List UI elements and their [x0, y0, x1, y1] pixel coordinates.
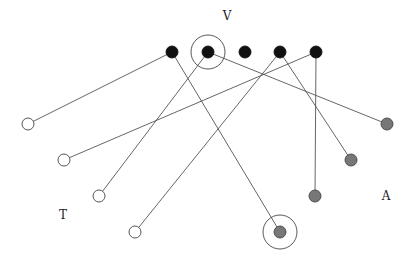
edges-layer	[28, 52, 387, 232]
v-node-v3	[239, 46, 251, 58]
a-node-a4	[274, 226, 286, 238]
a-node-a2	[345, 154, 357, 166]
bipartite-graph-diagram: V T A	[0, 0, 413, 262]
t-node-t4	[129, 226, 141, 238]
v-node-v1	[166, 46, 178, 58]
edge-v1-a4	[172, 52, 280, 232]
v-node-v4	[274, 46, 286, 58]
a-node-a3	[309, 190, 321, 202]
label-v: V	[222, 9, 232, 23]
edge-v2-a1	[208, 52, 387, 124]
a-node-a1	[381, 118, 393, 130]
labels-layer: V T A	[59, 9, 391, 222]
edge-v5-t2	[64, 52, 316, 160]
t-node-t2	[58, 154, 70, 166]
t-node-t3	[93, 190, 105, 202]
t-node-t1	[22, 118, 34, 130]
edge-v2-t3	[99, 52, 208, 196]
label-t: T	[59, 208, 67, 222]
edge-v1-t1	[28, 52, 172, 124]
edge-v4-t4	[135, 52, 280, 232]
edge-v5-a3	[315, 52, 316, 196]
v-node-v2	[202, 46, 214, 58]
v-node-v5	[310, 46, 322, 58]
label-a: A	[381, 189, 391, 203]
